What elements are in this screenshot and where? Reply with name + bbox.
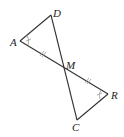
label-r: R [110,89,118,101]
segment-ar [20,41,108,94]
label-a: A [9,36,17,48]
angle-mark-r [99,90,101,99]
segment-rc [77,94,108,120]
label-m: M [65,59,76,71]
geometry-diagram: D A M R C [0,0,124,137]
segment-ad [20,15,51,41]
label-d: D [52,7,61,19]
label-c: C [72,121,80,133]
